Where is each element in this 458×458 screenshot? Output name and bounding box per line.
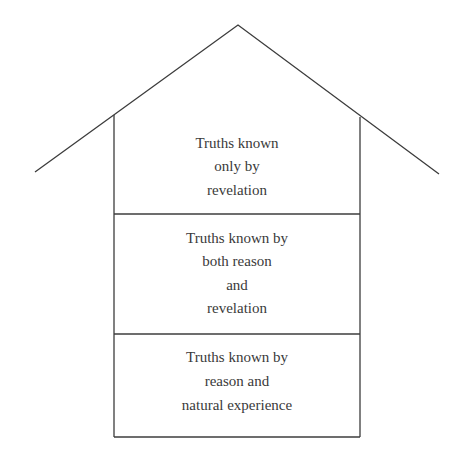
section-2-line-1: Truths known by bbox=[186, 230, 288, 246]
section-1-line-1: Truths known bbox=[195, 135, 279, 151]
section-3-line-2: reason and bbox=[205, 373, 270, 389]
section-3-line-1: Truths known by bbox=[186, 349, 288, 365]
section-2-line-2: both reason bbox=[202, 253, 272, 269]
roof bbox=[35, 25, 439, 174]
house-diagram: Truths known only by revelation Truths k… bbox=[0, 0, 458, 458]
section-reason-and-experience: Truths known by reason and natural exper… bbox=[182, 349, 293, 413]
section-1-line-3: revelation bbox=[207, 182, 267, 198]
section-2-line-4: revelation bbox=[207, 300, 267, 316]
section-1-line-2: only by bbox=[214, 158, 260, 174]
section-2-line-3: and bbox=[226, 277, 248, 293]
section-reason-and-revelation: Truths known by both reason and revelati… bbox=[186, 230, 288, 316]
section-3-line-3: natural experience bbox=[182, 397, 293, 413]
section-revelation-only: Truths known only by revelation bbox=[195, 135, 279, 198]
